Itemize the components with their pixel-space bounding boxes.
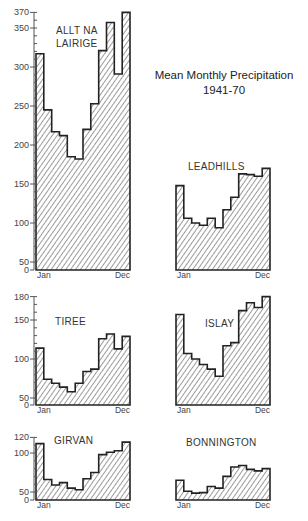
panel-islay: JanDecISLAY [176, 297, 271, 415]
x-label-end: Dec [115, 500, 131, 510]
y-tick-label: 180 [14, 292, 29, 302]
y-tick-label: 100 [14, 218, 29, 228]
panel-girvan: 050100120JanDecGIRVAN [14, 432, 131, 510]
y-tick-label: 250 [14, 101, 29, 111]
station-name: BONNINGTON [186, 437, 257, 448]
station-name: ISLAY [205, 318, 234, 329]
precipitation-bars [176, 297, 270, 405]
precipitation-bars [36, 442, 130, 500]
panel-bonnington: JanDecBONNINGTON [176, 437, 271, 510]
x-label-end: Dec [255, 270, 271, 280]
subtitle-text: 1941-70 [203, 84, 245, 96]
x-label-start: Jan [177, 270, 191, 280]
chart-title: Mean Monthly Precipitation 1941-70 [155, 69, 294, 96]
y-tick-label: 50 [19, 393, 29, 403]
precipitation-bars [176, 466, 270, 501]
x-label-end: Dec [115, 270, 131, 280]
precipitation-bars [36, 334, 130, 405]
x-label-end: Dec [255, 500, 271, 510]
x-label-start: Jan [37, 500, 51, 510]
x-label-start: Jan [37, 405, 51, 415]
x-label-start: Jan [37, 270, 51, 280]
chart-canvas: Mean Monthly Precipitation 1941-70 05010… [0, 0, 308, 521]
y-tick-label: 200 [14, 140, 29, 150]
y-tick-label: 50 [19, 487, 29, 497]
x-label-end: Dec [255, 405, 271, 415]
x-label-start: Jan [177, 500, 191, 510]
y-tick-label: 150 [14, 179, 29, 189]
y-tick-label: 50 [19, 257, 29, 267]
station-panels: 050100150200250300350370JanDecALLT NALAI… [14, 7, 271, 510]
y-tick-label: 120 [14, 432, 29, 442]
station-name: LAIRIGE [56, 38, 98, 49]
y-tick-label: 300 [14, 62, 29, 72]
y-tick-label: 100 [14, 354, 29, 364]
y-tick-label: 100 [14, 448, 29, 458]
y-tick-label: 370 [14, 7, 29, 17]
station-name: LEADHILLS [188, 161, 245, 172]
precipitation-bars [36, 12, 130, 270]
panel-tiree: 050100150180JanDecTIREE [14, 292, 131, 415]
panel-allt-na-lairige: 050100150200250300350370JanDecALLT NALAI… [14, 7, 131, 280]
station-name: ALLT NA [56, 25, 98, 36]
precipitation-bars [176, 168, 270, 270]
x-label-end: Dec [115, 405, 131, 415]
title-text: Mean Monthly Precipitation [155, 69, 294, 81]
station-name: GIRVAN [54, 435, 93, 446]
x-label-start: Jan [177, 405, 191, 415]
y-tick-label: 150 [14, 315, 29, 325]
panel-leadhills: JanDecLEADHILLS [176, 161, 271, 280]
y-tick-label: 350 [14, 23, 29, 33]
station-name: TIREE [55, 316, 86, 327]
